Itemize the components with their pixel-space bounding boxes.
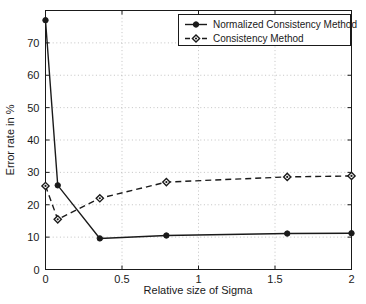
y-tick-label: 60 [27,69,39,81]
data-point-marker-center [165,181,167,183]
data-point-marker [43,18,48,23]
data-point-marker-center [350,175,352,177]
data-point-marker [164,233,169,238]
x-tick-label: 2 [348,273,354,285]
chart-legend: Normalized Consistency MethodConsistency… [179,15,357,46]
x-tick-label: 0.5 [114,273,129,285]
y-tick-label: 40 [27,134,39,146]
x-tick-label: 1.5 [267,273,282,285]
legend-marker-2-center [195,37,197,39]
x-tick-label: 1 [195,273,201,285]
x-tick-label: 0 [42,273,48,285]
y-tick-label: 50 [27,102,39,114]
data-point-marker-center [44,185,46,187]
data-point-marker [349,231,354,236]
legend-marker-1 [193,22,198,27]
y-tick-label: 30 [27,166,39,178]
legend-label-2: Consistency Method [213,33,304,44]
data-point-marker-center [99,197,101,199]
legend-label-1: Normalized Consistency Method [213,19,357,30]
y-tick-label: 70 [27,37,39,49]
x-axis-title: Relative size of Sigma [144,284,254,296]
y-tick-label: 10 [27,231,39,243]
chart-figure: 00.511.52 010203040506070 Relative size … [0,0,366,304]
y-tick-label: 20 [27,199,39,211]
data-point-marker [55,183,60,188]
error-rate-line-chart: 00.511.52 010203040506070 Relative size … [0,0,366,304]
data-point-marker-center [57,218,59,220]
data-point-marker-center [286,176,288,178]
data-point-marker [97,236,102,241]
y-axis-title: Error rate in % [4,104,16,175]
y-tick-label: 0 [33,264,39,276]
data-point-marker [285,231,290,236]
